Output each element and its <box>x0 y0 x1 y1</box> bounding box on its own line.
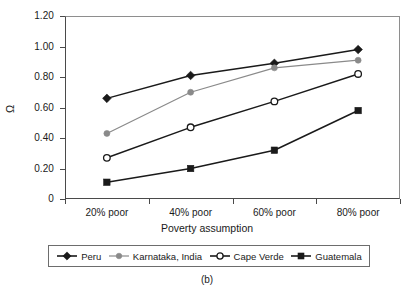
chart-legend: PeruKarnataka, IndiaCape VerdeGuatemala <box>48 245 370 267</box>
figure-caption: (b) <box>0 274 414 285</box>
figure-panel-b: Ω 1.201.000.800.600.400.200 20% poor40% … <box>0 0 414 294</box>
y-tick-label: 0.80 <box>34 72 54 82</box>
x-tick-mark <box>65 199 66 204</box>
y-tick-label: 1.00 <box>34 42 54 52</box>
legend-item-peru[interactable]: Peru <box>56 251 101 262</box>
y-tick-label: 0.60 <box>34 103 54 113</box>
legend-item-guatemala[interactable]: Guatemala <box>290 251 361 262</box>
legend-marker-filled-diamond-icon <box>56 251 78 261</box>
legend-label: Peru <box>81 251 101 262</box>
x-tick-label: 60% poor <box>233 207 317 218</box>
legend-item-cape-verde[interactable]: Cape Verde <box>209 251 284 262</box>
legend-item-karnataka-india[interactable]: Karnataka, India <box>108 251 202 262</box>
x-tick-mark <box>149 199 150 204</box>
x-tick-label: 40% poor <box>149 207 233 218</box>
legend-label: Cape Verde <box>234 251 284 262</box>
x-tick-mark <box>233 199 234 204</box>
cropped-chart-title <box>0 0 414 4</box>
legend-label: Karnataka, India <box>133 251 202 262</box>
x-tick-label: 20% poor <box>65 207 149 218</box>
x-tick-mark <box>316 199 317 204</box>
legend-marker-filled-square-icon <box>290 251 312 261</box>
plot-area <box>65 16 400 199</box>
legend-marker-open-circle-icon <box>209 251 231 261</box>
y-tick-label: 1.20 <box>34 11 54 21</box>
y-tick-label: 0 <box>48 194 54 204</box>
x-axis-title: Poverty assumption <box>0 222 414 234</box>
y-tick-label: 0.40 <box>34 133 54 143</box>
x-tick-label: 80% poor <box>316 207 400 218</box>
legend-marker-filled-circle-icon <box>108 251 130 261</box>
legend-label: Guatemala <box>315 251 361 262</box>
x-tick-mark <box>400 199 401 204</box>
y-tick-label: 0.20 <box>34 164 54 174</box>
